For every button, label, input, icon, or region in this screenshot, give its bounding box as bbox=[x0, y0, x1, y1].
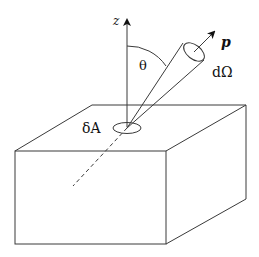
theta-label: θ bbox=[139, 58, 147, 73]
solid-angle-diagram: z θ p dΩ δA bbox=[0, 0, 259, 257]
box-right-face bbox=[166, 105, 246, 244]
box-top-face bbox=[15, 105, 246, 151]
box-front-face bbox=[15, 151, 166, 244]
dashed-extension-line bbox=[73, 128, 127, 186]
area-element-label: δA bbox=[82, 120, 101, 136]
momentum-arrow bbox=[194, 32, 214, 52]
box bbox=[15, 105, 246, 244]
momentum-label: p bbox=[221, 34, 231, 50]
solid-angle-cone bbox=[127, 39, 208, 128]
z-axis-label: z bbox=[112, 14, 120, 28]
solid-angle-label: dΩ bbox=[212, 64, 233, 80]
